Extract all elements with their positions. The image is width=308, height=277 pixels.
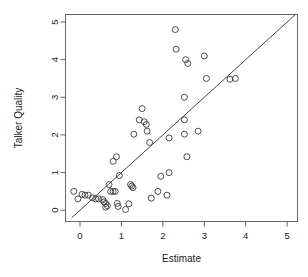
data-point xyxy=(103,204,109,210)
x-tick-label: 1 xyxy=(119,230,124,241)
x-axis-title: Estimate xyxy=(162,253,201,264)
data-point xyxy=(203,75,209,81)
y-tick-label: 4 xyxy=(49,57,60,62)
plot-canvas: 012345012345EstimateTalker Quality xyxy=(0,0,308,277)
y-tick-label: 1 xyxy=(49,170,60,175)
identity-reference-line xyxy=(72,15,296,218)
x-tick-label: 0 xyxy=(77,230,82,241)
data-point xyxy=(147,139,153,145)
y-tick-label: 3 xyxy=(49,95,60,100)
data-point xyxy=(144,128,150,134)
y-tick-label: 0 xyxy=(49,208,60,213)
scatter-plot-figure: 012345012345EstimateTalker Quality xyxy=(0,0,308,277)
data-point-group xyxy=(71,27,239,213)
data-point xyxy=(113,154,119,160)
data-point xyxy=(116,173,122,179)
data-point xyxy=(164,192,170,198)
data-point xyxy=(166,170,172,176)
y-tick-label: 5 xyxy=(49,19,60,24)
data-point xyxy=(155,188,161,194)
data-point xyxy=(181,131,187,137)
data-point xyxy=(131,131,137,137)
data-point xyxy=(173,46,179,52)
data-point xyxy=(201,53,207,59)
x-tick-label: 3 xyxy=(202,230,207,241)
x-tick-label: 2 xyxy=(160,230,165,241)
data-point xyxy=(123,206,129,212)
data-point xyxy=(184,154,190,160)
data-point xyxy=(166,135,172,141)
x-tick-label: 5 xyxy=(284,230,289,241)
data-point xyxy=(181,94,187,100)
data-point xyxy=(139,106,145,112)
data-point xyxy=(71,188,77,194)
y-axis-title: Talker Quality xyxy=(13,88,24,149)
y-tick-label: 2 xyxy=(49,132,60,137)
data-point xyxy=(126,201,132,207)
data-point xyxy=(148,195,154,201)
x-tick-label: 4 xyxy=(243,230,248,241)
data-point xyxy=(106,182,112,188)
data-point xyxy=(172,27,178,33)
data-point xyxy=(195,128,201,134)
data-point xyxy=(181,117,187,123)
data-point xyxy=(158,173,164,179)
